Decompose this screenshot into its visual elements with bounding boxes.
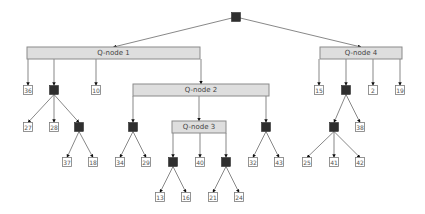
edge-p4-l43: [266, 132, 279, 158]
leaf-node-label: 27: [24, 124, 32, 131]
leaf-node[interactable]: 10: [92, 86, 101, 95]
leaf-node-label: 16: [182, 194, 190, 201]
leaf-node-label: 43: [275, 159, 283, 166]
edge-p3-l34: [120, 132, 133, 158]
leaf-node-label: 13: [156, 194, 164, 201]
leaf-node[interactable]: 25: [303, 158, 312, 167]
leaf-node[interactable]: 24: [235, 193, 244, 202]
p-node-square: [262, 123, 271, 132]
leaf-node-label: 42: [356, 159, 364, 166]
leaf-node[interactable]: 37: [63, 158, 72, 167]
q-node[interactable]: Q-node 3: [172, 121, 226, 133]
leaf-node[interactable]: 29: [142, 158, 151, 167]
edge-p2-l37: [67, 132, 79, 158]
p-node[interactable]: [330, 123, 339, 132]
leaf-node[interactable]: 32: [249, 158, 258, 167]
p-node-square: [129, 123, 138, 132]
leaf-node[interactable]: 15: [315, 86, 324, 95]
leaf-node-label: 24: [235, 194, 243, 201]
leaf-node-label: 28: [50, 124, 58, 131]
p-node-square: [75, 123, 84, 132]
p-node[interactable]: [262, 123, 271, 132]
edge-p0-q1: [114, 17, 237, 47]
leaf-node[interactable]: 18: [89, 158, 98, 167]
leaf-node[interactable]: 38: [356, 123, 365, 132]
q-node[interactable]: Q-node 4: [320, 47, 402, 59]
edge-p6-l24: [226, 167, 239, 193]
p-node[interactable]: [169, 158, 178, 167]
leaf-node-label: 21: [209, 194, 217, 201]
q-node[interactable]: Q-node 1: [27, 47, 200, 59]
leaf-node[interactable]: 2: [369, 86, 378, 95]
leaf-node[interactable]: 27: [24, 123, 33, 132]
leaf-node[interactable]: 40: [196, 158, 205, 167]
p-node-square: [342, 86, 351, 95]
leaf-node-label: 10: [92, 87, 100, 94]
q-node[interactable]: Q-node 2: [133, 84, 269, 96]
edge-p6-l21: [213, 167, 226, 193]
leaf-node[interactable]: 28: [50, 123, 59, 132]
leaf-node[interactable]: 43: [275, 158, 284, 167]
p-node-square: [222, 158, 231, 167]
leaf-node-label: 34: [116, 159, 124, 166]
leaf-node-label: 36: [24, 87, 32, 94]
leaf-node[interactable]: 13: [156, 193, 165, 202]
p-node[interactable]: [50, 86, 59, 95]
leaf-node-label: 19: [396, 87, 404, 94]
q-node-label: Q-node 2: [185, 86, 217, 94]
edge-p5-l13: [160, 167, 173, 193]
p-node[interactable]: [222, 158, 231, 167]
edge-p1-l27: [28, 95, 54, 123]
leaf-node-label: 29: [142, 159, 150, 166]
leaf-node[interactable]: 36: [24, 86, 33, 95]
leaf-node[interactable]: 21: [209, 193, 218, 202]
leaf-node[interactable]: 16: [182, 193, 191, 202]
leaf-node[interactable]: 34: [116, 158, 125, 167]
p-node[interactable]: [232, 13, 241, 22]
nodes-layer: Q-node 1Q-node 2Q-node 3Q-node 436102728…: [24, 13, 405, 202]
p-node-square: [50, 86, 59, 95]
edge-p7-l38: [346, 95, 360, 123]
p-node-square: [232, 13, 241, 22]
leaf-node-label: 40: [196, 159, 204, 166]
leaf-node-label: 15: [315, 87, 323, 94]
p-node-square: [169, 158, 178, 167]
leaf-node-label: 41: [330, 159, 338, 166]
edge-p1-p2: [54, 95, 79, 123]
edge-p3-l29: [133, 132, 146, 158]
edge-p4-l32: [253, 132, 266, 158]
edges-layer: [28, 17, 400, 193]
p-node[interactable]: [129, 123, 138, 132]
leaf-node-label: 38: [356, 124, 364, 131]
pq-tree-diagram: Q-node 1Q-node 2Q-node 3Q-node 436102728…: [0, 0, 425, 214]
p-node[interactable]: [342, 86, 351, 95]
leaf-node-label: 25: [303, 159, 311, 166]
q-node-label: Q-node 4: [345, 49, 378, 57]
leaf-node[interactable]: 19: [396, 86, 405, 95]
q-node-label: Q-node 3: [183, 123, 215, 131]
edge-p7-p8: [334, 95, 346, 123]
leaf-node[interactable]: 41: [330, 158, 339, 167]
leaf-node-label: 37: [63, 159, 71, 166]
q-node-label: Q-node 1: [97, 49, 129, 57]
edge-p2-l18: [79, 132, 93, 158]
leaf-node-label: 18: [89, 159, 97, 166]
leaf-node-label: 32: [249, 159, 257, 166]
edge-p0-q4: [236, 17, 361, 47]
leaf-node-label: 2: [371, 87, 375, 94]
edge-p5-l16: [173, 167, 186, 193]
p-node-square: [330, 123, 339, 132]
edge-p8-l42: [334, 132, 360, 158]
leaf-node[interactable]: 42: [356, 158, 365, 167]
edge-p8-l25: [307, 132, 334, 158]
p-node[interactable]: [75, 123, 84, 132]
